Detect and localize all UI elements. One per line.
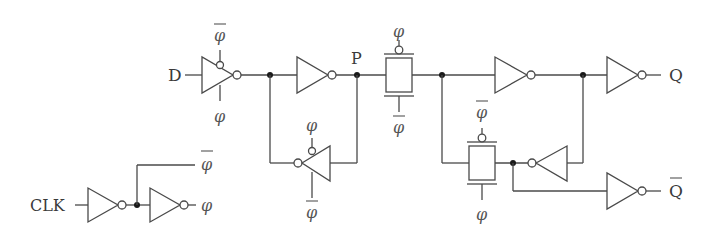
phi-label: φ (306, 116, 318, 135)
inverter-output-q: Q (607, 57, 683, 93)
label-q: Q (669, 65, 683, 85)
svg-text:φ: φ (393, 118, 405, 137)
svg-text:φ: φ (201, 155, 213, 174)
svg-text:φ: φ (214, 26, 226, 45)
phi-label: φ (476, 205, 488, 224)
circuit-diagram: D φ φ P φ (0, 0, 717, 244)
inverter-output-qbar: Q (607, 173, 683, 209)
clock-generator: CLK φ φ (30, 151, 213, 222)
phi-bar-label: φ (201, 151, 213, 174)
inverter-slave (495, 57, 535, 93)
clock-inverter-1 (88, 188, 126, 222)
label-clk: CLK (30, 196, 66, 215)
phi-bar-label: φ (476, 101, 488, 122)
inverter-slave-feedback (528, 75, 583, 181)
label-qbar: Q (669, 181, 683, 201)
svg-text:φ: φ (306, 203, 318, 222)
clocked-inverter-input: φ φ (202, 24, 241, 126)
input-d-terminal: D (168, 65, 202, 85)
phi-bar-label: φ (393, 116, 405, 137)
phi-bar-label: φ (306, 201, 318, 222)
phi-label: φ (214, 107, 226, 126)
clock-inverter-2 (150, 188, 188, 222)
phi-label: φ (201, 196, 213, 215)
label-p: P (351, 49, 362, 68)
clocked-inverter-master-feedback: φ φ (270, 116, 357, 222)
transmission-gate-2: φ φ (467, 101, 497, 224)
label-d: D (168, 65, 182, 85)
inverter-master (297, 57, 336, 93)
phi-label: φ (393, 22, 405, 41)
phi-bar-label: φ (214, 24, 226, 45)
svg-text:φ: φ (476, 103, 488, 122)
transmission-gate-1: φ φ (384, 22, 414, 137)
